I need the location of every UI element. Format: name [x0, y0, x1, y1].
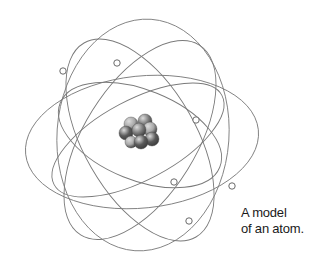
figure-caption: A model of an atom.: [241, 205, 304, 237]
nucleus-particle: [134, 135, 148, 149]
electron: [193, 117, 199, 123]
nucleus: [119, 114, 159, 149]
electron: [60, 68, 66, 74]
nucleus-particle: [132, 123, 146, 137]
electron: [229, 183, 235, 189]
electron: [186, 218, 192, 224]
electron: [114, 60, 120, 66]
caption-line-1: A model: [241, 205, 304, 221]
electron: [171, 179, 177, 185]
caption-line-2: of an atom.: [241, 221, 304, 237]
